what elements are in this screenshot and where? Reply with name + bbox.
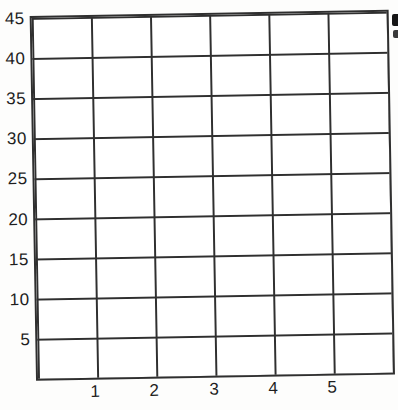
plot-area-grid	[30, 10, 395, 381]
y-tick-label: 40	[0, 49, 26, 69]
clipped-text-fragment	[392, 14, 398, 26]
y-tick-label: 45	[0, 9, 25, 29]
y-tick-label: 25	[0, 169, 28, 189]
scanned-page: 45 40 35 30 25 20 15 10 5 1 2 3 4 5	[0, 0, 398, 410]
x-tick-label: 4	[262, 379, 284, 399]
y-tick-label: 15	[1, 250, 29, 270]
y-tick-label: 35	[0, 89, 26, 109]
y-tick-label: 20	[0, 210, 28, 230]
y-tick-label: 30	[0, 129, 27, 149]
x-tick-label: 5	[321, 378, 343, 398]
x-tick-label: 3	[203, 380, 225, 400]
graph-figure: 45 40 35 30 25 20 15 10 5 1 2 3 4 5	[0, 0, 398, 410]
y-tick-label: 5	[2, 330, 30, 350]
x-tick-label: 1	[84, 382, 106, 402]
clipped-text-fragment	[393, 30, 398, 38]
y-tick-label: 10	[1, 290, 29, 310]
x-tick-label: 2	[143, 381, 165, 401]
